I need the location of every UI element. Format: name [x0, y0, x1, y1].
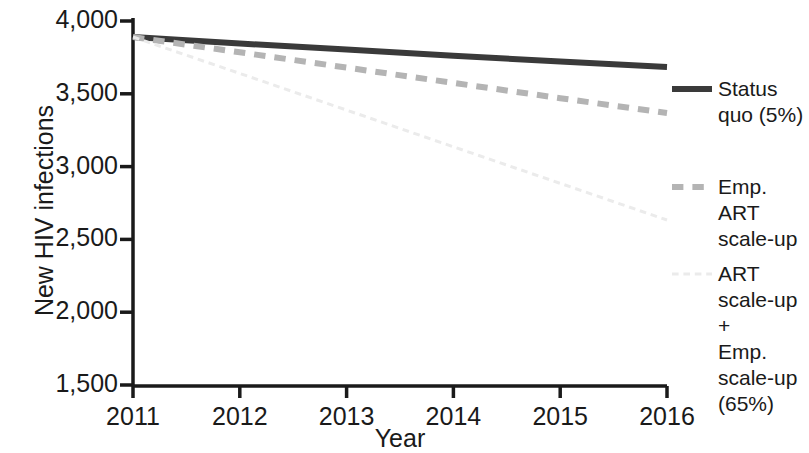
y-axis-ticks	[120, 21, 133, 385]
legend-entry-1[interactable]: Emp. ART scale-up	[672, 174, 809, 252]
chart-figure: 4,0003,5003,0002,5002,0001,500 201120122…	[0, 0, 809, 453]
legend-label-0: Status quo (5%)	[718, 76, 803, 128]
y-axis-tick-label: 1,500	[8, 371, 118, 396]
y-axis-tick-label: 3,000	[8, 153, 118, 178]
data-series-group	[133, 37, 667, 220]
x-axis-ticks	[133, 386, 667, 398]
y-axis-tick-label: 3,500	[8, 80, 118, 105]
legend-swatch-icon-2	[672, 261, 712, 283]
legend-entry-2[interactable]: ART scale-up + Emp. scale-up (65%)	[672, 261, 809, 417]
legend-label-2: ART scale-up + Emp. scale-up (65%)	[718, 261, 809, 417]
y-axis-tick-label: 2,000	[8, 298, 118, 323]
y-axis-tick-label: 4,000	[8, 7, 118, 32]
series-line-0	[133, 37, 667, 67]
y-axis-tick-label: 2,500	[8, 225, 118, 250]
legend-label-1: Emp. ART scale-up	[718, 174, 809, 252]
y-axis-title: New HIV infections	[30, 71, 59, 351]
x-axis-title: Year	[133, 424, 667, 453]
legend-swatch-icon-0	[672, 76, 712, 98]
legend-entry-0[interactable]: Status quo (5%)	[672, 76, 809, 128]
legend-swatch-icon-1	[672, 174, 712, 196]
series-line-1	[133, 37, 667, 113]
